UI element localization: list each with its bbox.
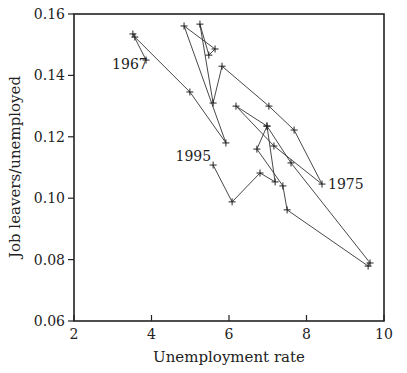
year-annotation: 1975 [328, 176, 364, 192]
y-tick-label: 0.06 [34, 313, 65, 329]
plus-marker-icon [284, 206, 291, 213]
x-tick-label: 10 [375, 326, 393, 342]
plus-marker-icon [181, 22, 188, 29]
y-axis-title: Job leavers/unemployed [6, 76, 24, 261]
x-tick-label: 6 [225, 326, 234, 342]
y-tick-label: 0.16 [34, 6, 65, 22]
plus-marker-icon [279, 182, 286, 189]
plus-marker-icon [129, 30, 136, 37]
plus-marker-icon [365, 263, 372, 270]
year-annotation: 1995 [175, 148, 211, 164]
series-line [133, 24, 370, 266]
annotations: 196719751995 [112, 56, 364, 192]
plus-marker-icon [253, 146, 260, 153]
plus-marker-icon [196, 21, 203, 28]
data-series [129, 21, 373, 270]
x-axis-title: Unemployment rate [153, 348, 305, 366]
y-tick-label: 0.12 [34, 129, 65, 145]
year-annotation: 1967 [112, 56, 148, 72]
x-tick-label: 2 [70, 326, 79, 342]
x-tick-label: 8 [302, 326, 311, 342]
axis-ticks: 2468100.060.080.100.120.140.16 [34, 6, 393, 342]
plus-marker-icon [222, 139, 229, 146]
plus-marker-icon [272, 178, 279, 185]
chart: 2468100.060.080.100.120.140.16 196719751… [0, 0, 407, 373]
y-tick-label: 0.10 [34, 190, 65, 206]
plus-marker-icon [263, 123, 270, 130]
y-tick-label: 0.14 [34, 67, 65, 83]
y-tick-label: 0.08 [34, 252, 65, 268]
x-tick-label: 4 [147, 326, 156, 342]
